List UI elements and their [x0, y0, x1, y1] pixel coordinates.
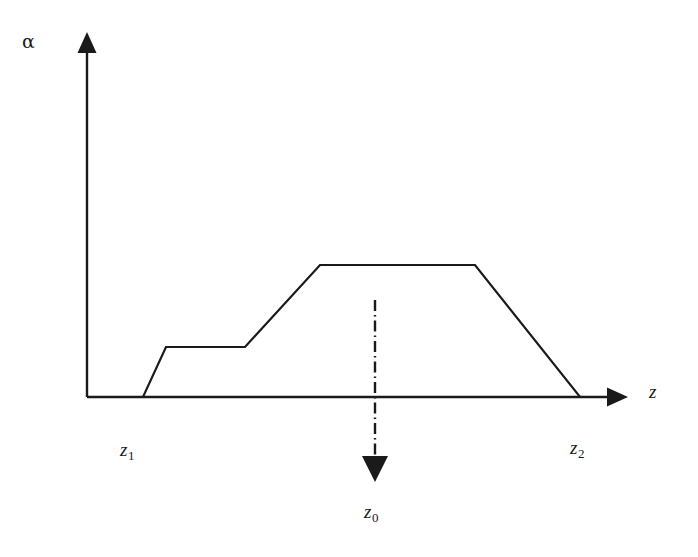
y-axis-label: α — [22, 32, 35, 51]
annotation-z1-subscript: 1 — [127, 448, 134, 463]
profile-diagram — [0, 0, 698, 557]
annotation-z0: z0 — [364, 502, 378, 524]
z0-marker-arrow-icon — [362, 456, 388, 482]
alpha-profile-curve — [87, 265, 626, 397]
figure-canvas: α z z1 z2 z0 — [0, 0, 698, 557]
annotation-z0-subscript: 0 — [371, 510, 378, 525]
annotation-z2-subscript: 2 — [577, 446, 584, 461]
annotation-z2: z2 — [570, 438, 584, 460]
x-axis-label: z — [649, 382, 656, 401]
annotation-z1: z1 — [120, 440, 134, 462]
y-axis-arrow-icon — [78, 32, 97, 53]
